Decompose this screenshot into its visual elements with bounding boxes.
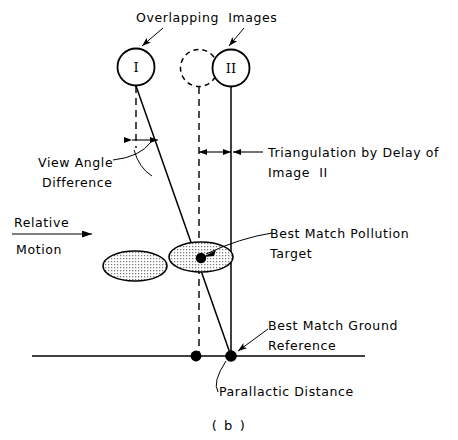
image-two-label: II: [226, 61, 236, 76]
best-match-pollution-label-line1: Best Match Pollution: [270, 226, 409, 241]
sight-line-image-one: [136, 86, 231, 356]
view-angle-label-line1: View Angle: [38, 155, 113, 170]
ground-point-nadir: [191, 351, 202, 362]
best-match-ground-label-line2: Reference: [268, 338, 336, 353]
relative-motion-label-line2: Motion: [16, 242, 62, 257]
relative-motion-label-line1: Relative: [14, 215, 69, 230]
view-angle-label-line2: Difference: [42, 175, 113, 190]
image-one-label: I: [133, 60, 138, 75]
triangulation-label-line1: Triangulation by Delay of: [267, 145, 439, 160]
leader-arrow-image-two: [229, 28, 244, 46]
view-angle-leader-line: [113, 142, 151, 160]
figure-caption: ( b ): [212, 418, 247, 433]
pollution-ellipse-left: [103, 251, 167, 281]
triangulation-label-line2: Image II: [268, 165, 328, 180]
overlapping-images-label: Overlapping Images: [136, 10, 277, 25]
best-match-pollution-point: [196, 253, 206, 263]
parallax-triangulation-diagram: Overlapping Images I II View Angle Diffe…: [0, 0, 458, 440]
parallactic-distance-label: Parallactic Distance: [219, 384, 354, 399]
best-match-ground-leader-arrow: [238, 329, 268, 351]
ground-point-best-match: [225, 350, 237, 362]
best-match-pollution-label-line2: Target: [269, 246, 312, 261]
figure-container: Overlapping Images I II View Angle Diffe…: [0, 0, 458, 440]
leader-arrow-image-one: [142, 28, 163, 46]
best-match-ground-label-line1: Best Match Ground: [268, 318, 398, 333]
